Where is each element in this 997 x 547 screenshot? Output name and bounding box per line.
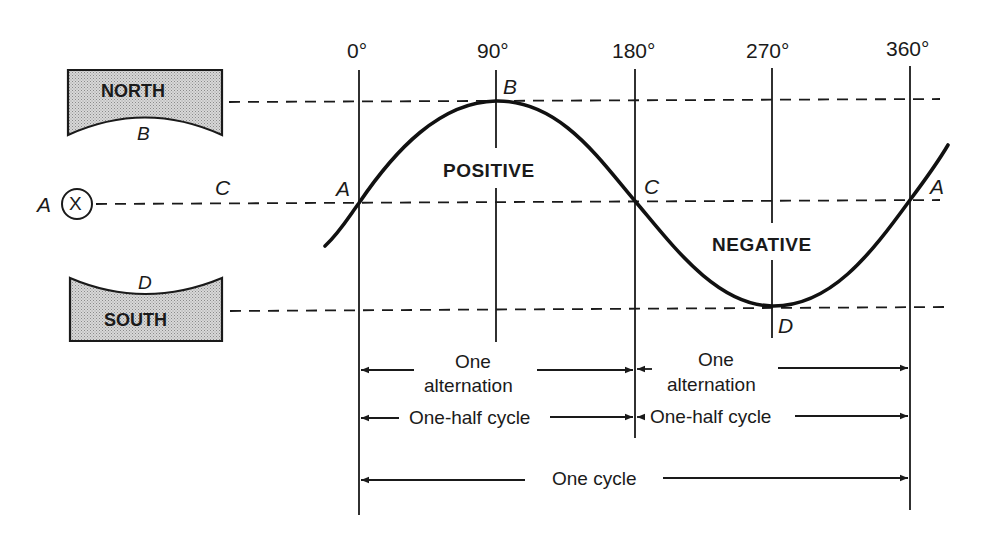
positive-label: POSITIVE [443,161,535,180]
zero-reference-line [96,200,940,204]
point-label-d: D [778,315,793,336]
conductor-label: A [37,194,51,215]
trough-reference-line [230,307,945,311]
peak-reference-line [229,99,940,102]
alternation-1-label-line1: One [455,352,491,371]
sine-wave-diagram: NORTH B A X C D SOUTH 0° 90° 180° 270° 3… [0,0,997,547]
point-label-b: B [503,76,517,97]
point-label-c: C [644,176,659,197]
midline-label: C [215,177,230,198]
south-label: SOUTH [104,311,167,329]
alternation-1-label-line2: alternation [424,376,513,395]
point-label-a-start: A [336,178,350,199]
half-cycle-2-label: One-half cycle [650,407,771,426]
tick-label-90: 90° [477,40,509,61]
alternation-2-label-line2: alternation [667,375,756,394]
north-face-label: B [137,124,150,143]
south-face-label: D [138,273,152,292]
full-cycle-label: One cycle [552,469,636,488]
point-label-a-end: A [930,176,944,197]
north-label: NORTH [101,82,165,100]
tick-label-180: 180° [612,40,655,61]
half-cycle-1-label: One-half cycle [409,408,530,427]
tick-label-270: 270° [746,40,789,61]
negative-label: NEGATIVE [712,235,812,254]
alternation-2-label-line1: One [698,350,734,369]
sine-curve [325,101,948,306]
tick-label-360: 360° [886,38,929,59]
conductor-symbol: X [69,194,82,213]
reference-lines [96,99,945,311]
tick-label-0: 0° [347,40,367,61]
